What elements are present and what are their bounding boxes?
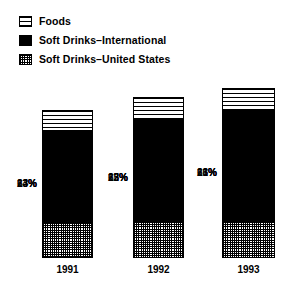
value-label-soft-drinks-united-states-1991: 23% (17, 179, 37, 189)
value-label-soft-drinks-united-states-1992: 22% (108, 173, 128, 183)
x-axis-label-1993: 1993 (237, 265, 259, 275)
value-label-soft-drinks-united-states-1993: 21% (197, 168, 217, 178)
bar-group-1993: 13% 66% 21% 1993 (222, 88, 275, 258)
plot-area: 14% 63% 23% 1991 13% 65% (0, 0, 295, 286)
stacked-bar-1993: 13% 66% 21% (222, 88, 275, 258)
stacked-bar-1992: 13% 65% 22% (133, 97, 184, 258)
bar-segment-soft-drinks-international-1993: 66% (223, 111, 274, 222)
bar-segment-soft-drinks-united-states-1993: 21% (223, 222, 274, 257)
bar-segment-foods-1993: 13% (223, 89, 274, 111)
bar-group-1992: 13% 65% 22% 1992 (133, 97, 184, 258)
bar-segment-soft-drinks-united-states-1992: 22% (134, 222, 183, 257)
stacked-bar-1991: 14% 63% 23% (42, 110, 93, 258)
x-axis-label-1991: 1991 (56, 265, 78, 275)
bar-segment-foods-1992: 13% (134, 98, 183, 119)
bar-segment-soft-drinks-united-states-1991: 23% (43, 223, 92, 257)
bar-segment-soft-drinks-international-1992: 65% (134, 119, 183, 222)
x-axis-label-1992: 1992 (147, 265, 169, 275)
bar-segment-foods-1991: 14% (43, 111, 92, 131)
stacked-bar-chart: Foods Soft Drinks–International Soft Dri… (0, 0, 295, 286)
bar-group-1991: 14% 63% 23% 1991 (42, 110, 93, 258)
bar-segment-soft-drinks-international-1991: 63% (43, 131, 92, 223)
